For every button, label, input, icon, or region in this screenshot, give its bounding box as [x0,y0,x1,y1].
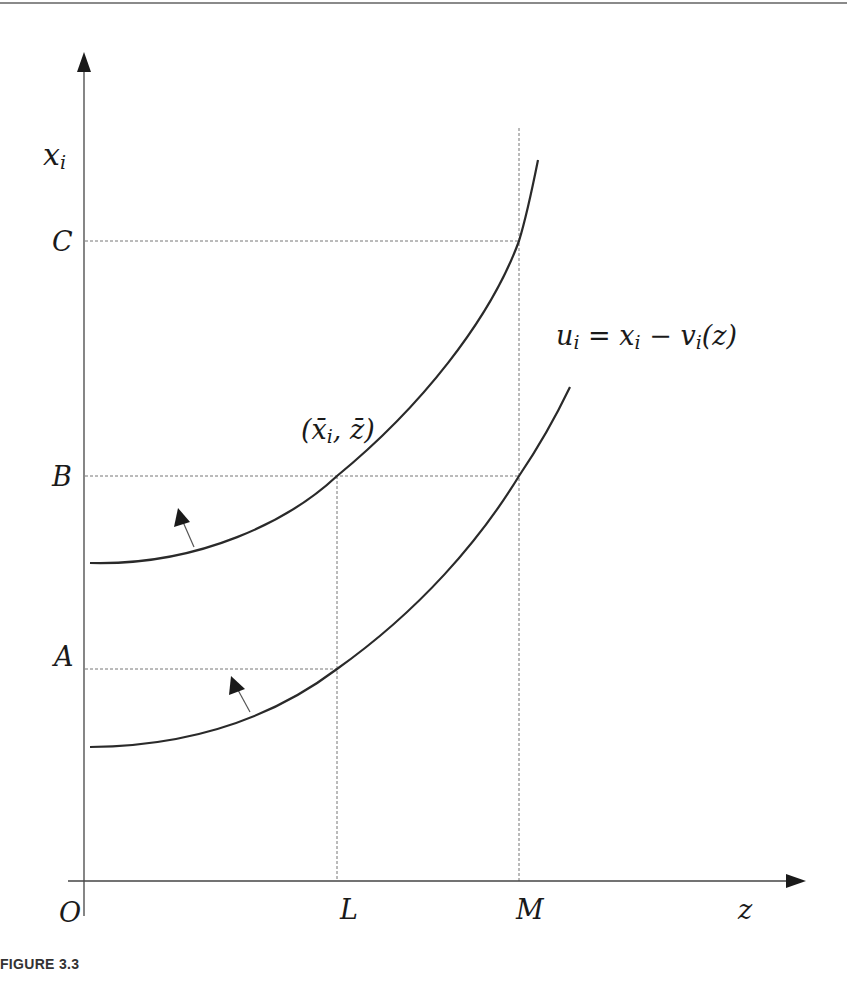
y-axis-label: xi [43,140,66,172]
equilibrium-point-label: (x̄i, z̄) [301,416,375,446]
upper-indifference-curve [90,160,538,563]
y-tick-a: A [54,643,74,670]
x-tick-l: L [340,896,358,923]
utility-equation-label: ui = xi − vi(z) [556,322,737,352]
indifference-curve-diagram [0,0,847,984]
axes [68,52,806,916]
origin-label: O [59,899,81,926]
paren-open: ( [301,414,312,445]
arrowhead-icon [229,676,245,695]
x-bar: x̄ [312,414,327,445]
paren-close: ) [364,414,375,445]
x-axis-label: z [738,896,752,923]
comma: , [333,414,350,445]
y-tick-b: B [52,463,72,490]
y-tick-c: C [52,228,73,255]
eq-u: u [556,320,573,351]
eq-minus: − [641,320,681,351]
utility-direction-arrow-lower [229,676,250,712]
eq-v: v [680,320,695,351]
utility-direction-arrow-upper [174,508,194,547]
x-axis-arrowhead-icon [786,874,806,888]
z-bar: z̄ [350,414,364,445]
figure-caption: FIGURE 3.3 [0,956,79,972]
eq-arg: (z) [702,320,737,351]
arrowhead-icon [174,508,190,527]
eq-x: x [619,320,634,351]
y-axis-arrowhead-icon [77,52,91,72]
eq-equals: = [579,320,619,351]
x-tick-m: M [516,896,544,923]
y-axis-label-base: x [43,137,60,172]
y-axis-label-subscript: i [60,151,66,173]
